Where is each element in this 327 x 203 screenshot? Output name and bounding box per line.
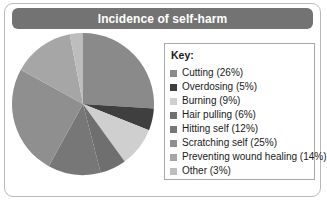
legend-item-label: Scratching self (25%) (182, 136, 277, 150)
legend: Key: Cutting (26%)Overdosing (5%)Burning… (164, 43, 315, 180)
legend-item: Other (3%) (170, 164, 314, 178)
legend-swatch-icon (170, 140, 177, 147)
legend-swatch-icon (170, 84, 177, 91)
legend-item-label: Burning (9%) (182, 94, 240, 108)
legend-item-label: Hitting self (12%) (182, 122, 258, 136)
legend-item: Hair pulling (6%) (170, 108, 314, 122)
legend-item: Scratching self (25%) (170, 136, 314, 150)
legend-item: Burning (9%) (170, 94, 314, 108)
legend-item-label: Cutting (26%) (182, 66, 243, 80)
legend-title: Key: (171, 49, 314, 62)
legend-item-label: Hair pulling (6%) (182, 108, 256, 122)
pie-slice (83, 33, 154, 108)
pie-chart-svg (11, 32, 155, 176)
legend-item-label: Overdosing (5%) (182, 80, 257, 94)
pie-slice-group (12, 33, 154, 175)
chart-title-bar: Incidence of self-harm (12, 8, 313, 29)
legend-item-label: Other (3%) (182, 164, 231, 178)
page-title: Incidence of self-harm (98, 12, 228, 26)
pie-chart-area (5, 30, 165, 197)
legend-swatch-icon (170, 70, 177, 77)
legend-item: Hitting self (12%) (170, 122, 314, 136)
chart-card: Incidence of self-harm Key: Cutting (26%… (4, 3, 321, 197)
legend-swatch-icon (170, 154, 177, 161)
pie-chart (11, 32, 155, 176)
legend-item: Cutting (26%) (170, 66, 314, 80)
legend-swatch-icon (170, 112, 177, 119)
legend-swatch-icon (170, 126, 177, 133)
legend-swatch-icon (170, 168, 177, 175)
legend-item-label: Preventing wound healing (14%) (182, 150, 327, 164)
legend-list: Cutting (26%)Overdosing (5%)Burning (9%)… (170, 66, 314, 178)
legend-swatch-icon (170, 98, 177, 105)
legend-item: Overdosing (5%) (170, 80, 314, 94)
legend-item: Preventing wound healing (14%) (170, 150, 314, 164)
